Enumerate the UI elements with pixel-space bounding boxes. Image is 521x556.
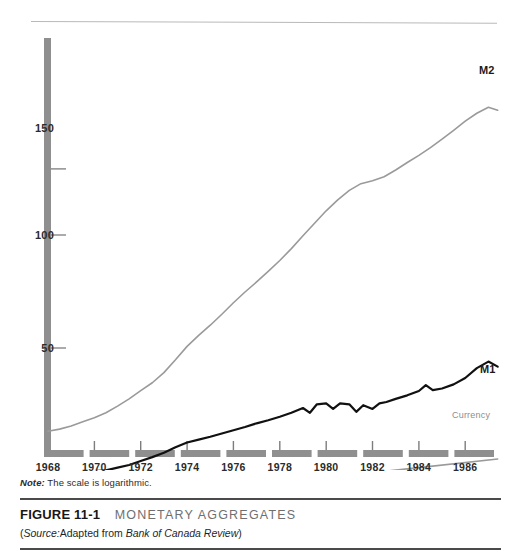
caption-line: FIGURE 11-1 MONETARY AGGREGATES — [20, 505, 296, 523]
x-axis-bar-segment — [409, 450, 449, 457]
x-axis-label: 1978 — [258, 461, 302, 473]
x-axis-bar-segment — [363, 450, 403, 457]
y-axis-label-150: 150 — [22, 122, 54, 134]
x-axis-bar-segment — [318, 450, 358, 457]
x-axis-label: 1976 — [211, 461, 255, 473]
chart-note: Note: The scale is logarithmic. — [20, 477, 152, 488]
y-axis-ticks — [51, 169, 66, 348]
x-axis-ticks — [94, 441, 465, 450]
source-label: Source: — [24, 527, 60, 539]
x-axis-bar — [44, 450, 494, 457]
y-axis-bar — [44, 38, 51, 457]
x-axis-label: 1986 — [443, 461, 487, 473]
source-publication: Bank of Canada Review — [126, 527, 239, 539]
x-axis-bar-segment — [454, 450, 494, 457]
series-label-currency: Currency — [452, 410, 490, 420]
x-axis-label: 1984 — [397, 461, 441, 473]
x-axis-bar-segment — [90, 450, 130, 457]
y-axis-label-50: 50 — [22, 342, 54, 354]
x-axis-label: 1974 — [165, 461, 209, 473]
series-line-m2 — [48, 107, 498, 431]
x-axis-bar-segment — [181, 450, 221, 457]
series-label-m1: M1 — [480, 363, 495, 375]
chart-note-text: The scale is logarithmic. — [47, 477, 151, 488]
x-axis-label: 1972 — [119, 461, 163, 473]
chart-note-prefix: Note: — [20, 477, 45, 488]
x-axis-label: 1980 — [304, 461, 348, 473]
x-axis-label: 1968 — [26, 461, 70, 473]
x-axis-bar-segment — [44, 450, 84, 457]
x-axis-label: 1970 — [72, 461, 116, 473]
figure-source: (Source:Adapted from Bank of Canada Revi… — [20, 527, 242, 539]
caption-rule-bottom — [20, 548, 501, 550]
figure-page: 150 100 50 19681970197219741976197819801… — [0, 0, 521, 556]
figure-title: MONETARY AGGREGATES — [115, 508, 297, 522]
monetary-aggregates-chart — [0, 0, 521, 470]
source-close-paren: ) — [238, 527, 242, 539]
series-label-m2: M2 — [479, 64, 494, 76]
x-axis-label: 1982 — [351, 461, 395, 473]
figure-number: FIGURE 11-1 — [20, 507, 100, 522]
source-text: Adapted from — [60, 527, 126, 539]
x-axis-bar-segment — [272, 450, 312, 457]
caption-rule-top — [20, 498, 501, 500]
y-axis-label-100: 100 — [22, 229, 54, 241]
chart-plot-area — [0, 0, 521, 470]
x-axis-bar-segment — [226, 450, 266, 457]
